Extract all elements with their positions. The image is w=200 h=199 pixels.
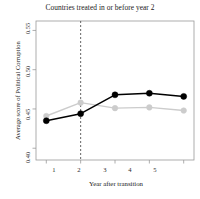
axis-ticks [33,30,184,163]
data-point [112,92,118,98]
data-point [78,100,84,106]
data-point [181,93,187,99]
data-point [147,105,153,111]
data-point [112,105,118,111]
data-point [78,111,84,117]
data-point [43,118,49,124]
axis-frame [36,21,194,160]
plot-area [0,0,200,199]
data-point [146,90,152,96]
data-point [181,108,187,114]
series-control [44,100,187,119]
series-group [43,90,186,123]
chart-figure: Countries treated in or before year 2 Av… [0,0,200,199]
